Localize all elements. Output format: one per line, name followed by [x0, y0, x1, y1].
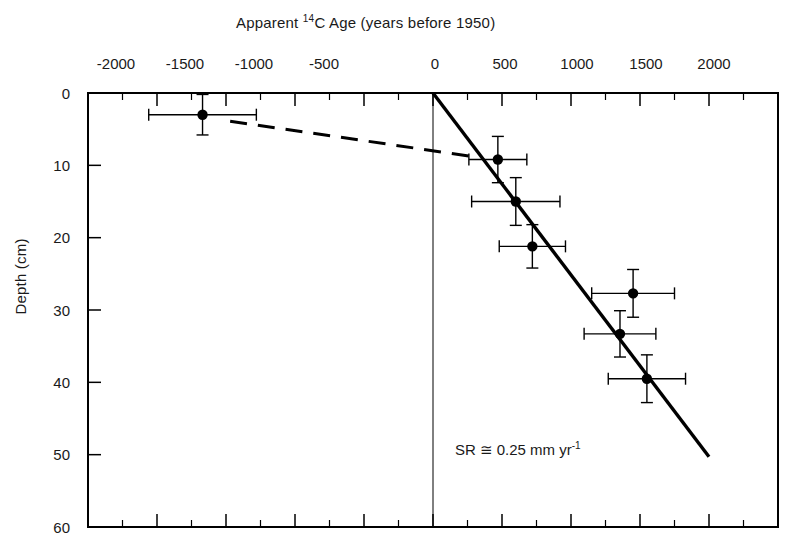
- sedimentation-rate-annotation: SR ≅ 0.25 mm yr-1: [455, 440, 581, 459]
- data-point-marker: [615, 329, 625, 339]
- data-point-marker: [197, 110, 207, 120]
- y-axis-ticks: [88, 165, 101, 454]
- data-point-marker: [642, 374, 652, 384]
- annotation-lead: SR ≅ 0.25 mm yr: [455, 441, 572, 458]
- sedimentation-rate-fit-line: [433, 93, 709, 457]
- data-point-marker: [511, 196, 521, 206]
- error-bars: [149, 94, 686, 402]
- data-point-marker: [628, 288, 638, 298]
- figure-radiocarbon-age-depth: Apparent 14C Age (years before 1950) Dep…: [0, 0, 800, 548]
- plot-area: [0, 0, 800, 548]
- data-point-marker: [493, 154, 503, 164]
- extrapolation-line: [230, 121, 478, 157]
- fit-line: [433, 93, 709, 457]
- data-point-marker: [527, 241, 537, 251]
- annotation-superscript: -1: [572, 440, 581, 451]
- extrapolation-dashed-line: [230, 121, 478, 157]
